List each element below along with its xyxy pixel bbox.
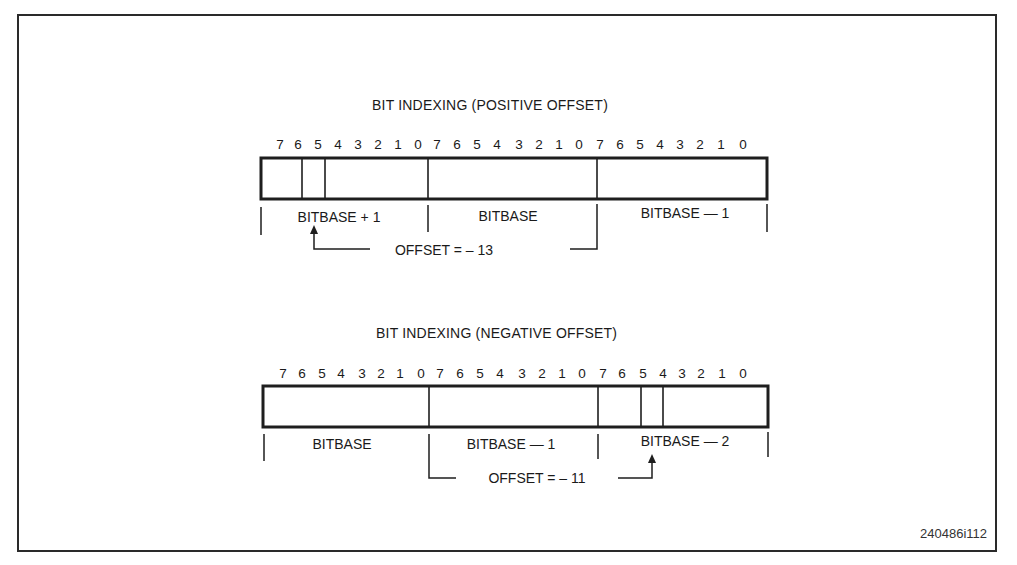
register-box-positive bbox=[261, 158, 767, 199]
arrowhead-up-icon bbox=[648, 454, 656, 463]
figure-id: 240486i112 bbox=[920, 526, 987, 541]
offset-arrow-positive bbox=[570, 204, 597, 249]
offset-arrow-negative bbox=[429, 434, 456, 478]
diagram-line-art bbox=[0, 0, 1017, 565]
arrowhead-up-icon bbox=[310, 225, 318, 234]
register-box-negative bbox=[263, 386, 768, 427]
